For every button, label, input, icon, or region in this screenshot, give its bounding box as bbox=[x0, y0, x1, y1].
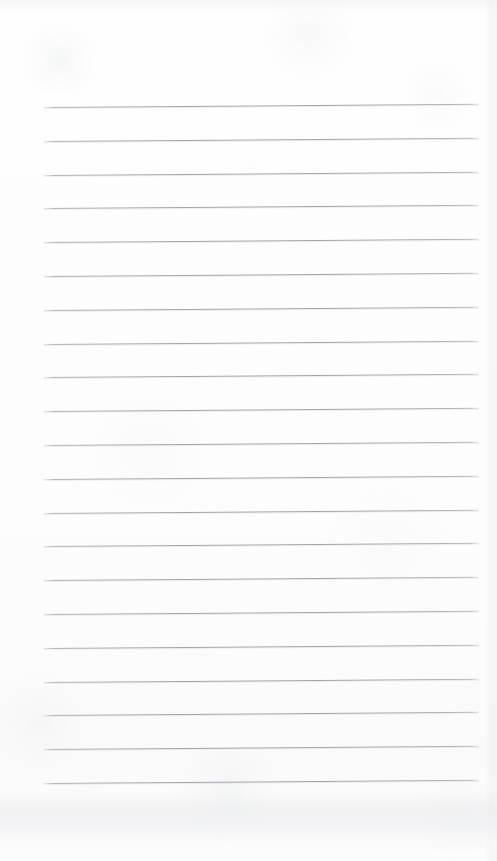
ruled-lines-group bbox=[0, 0, 497, 861]
ruled-line bbox=[44, 780, 479, 784]
ruled-line bbox=[44, 408, 479, 412]
ruled-line bbox=[44, 374, 479, 378]
ruled-line bbox=[44, 611, 479, 615]
ruled-line bbox=[44, 746, 479, 750]
ruled-line bbox=[44, 543, 479, 547]
ruled-line bbox=[44, 138, 479, 142]
ruled-line bbox=[44, 577, 479, 581]
ruled-line bbox=[44, 171, 479, 175]
ruled-line bbox=[44, 273, 479, 277]
ruled-line bbox=[44, 509, 479, 513]
ruled-line bbox=[44, 678, 479, 682]
ruled-line bbox=[44, 476, 479, 480]
ruled-line bbox=[44, 104, 479, 108]
ruled-line bbox=[44, 205, 479, 209]
ruled-line bbox=[44, 442, 479, 446]
ruled-line bbox=[44, 712, 479, 716]
ruled-line bbox=[44, 340, 479, 344]
notebook-page bbox=[0, 0, 497, 861]
ruled-line bbox=[44, 239, 479, 243]
ruled-line bbox=[44, 645, 479, 649]
ruled-line bbox=[44, 307, 479, 311]
